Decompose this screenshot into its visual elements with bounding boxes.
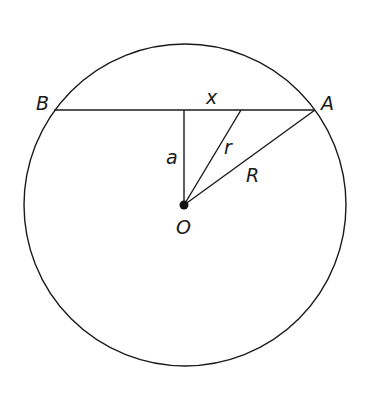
label-B: B	[36, 92, 49, 114]
label-a: a	[166, 146, 178, 168]
label-r: r	[224, 136, 233, 158]
label-x: x	[205, 86, 218, 108]
label-R: R	[246, 164, 259, 186]
center-point-O	[180, 201, 189, 210]
label-A: A	[319, 92, 334, 114]
segment-R	[184, 110, 315, 205]
circle-diagram: B A x a r R O	[0, 0, 368, 396]
segment-r	[184, 110, 241, 205]
label-O: O	[176, 216, 191, 238]
